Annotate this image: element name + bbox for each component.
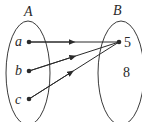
mapping-diagram: A a b c B 5 8: [0, 0, 142, 122]
set-b-ellipse: [98, 21, 142, 122]
element-a-label: a: [15, 34, 22, 49]
set-a-label: A: [23, 4, 33, 19]
element-8-label: 8: [123, 65, 130, 80]
set-b: B 5 8: [98, 3, 142, 122]
set-b-label: B: [113, 3, 122, 18]
set-a: A a b c: [6, 4, 50, 122]
element-b-label: b: [15, 63, 22, 78]
mapping-arrows: [29, 42, 119, 99]
element-c-label: c: [15, 92, 22, 107]
arrow-c-to-5: [29, 42, 119, 99]
arrow-b-to-5: [29, 42, 119, 71]
element-5-label: 5: [124, 35, 131, 50]
